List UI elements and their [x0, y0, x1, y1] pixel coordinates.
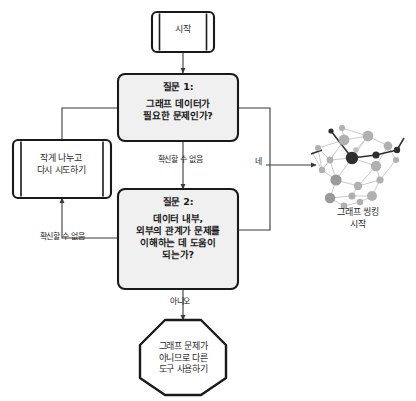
edge-label-unsure-middle: 확신할 수 없음 — [128, 155, 232, 165]
node-stop-label: 그래프 문제가 아니므로 다른 도구 사용하기 — [140, 341, 226, 376]
edge-label-no: 아니오 — [152, 297, 208, 307]
node-question1-title: 질문 1: — [118, 81, 238, 93]
edge-label-unsure-left: 확신할 수 없음 — [22, 232, 102, 242]
node-retry-label: 작게 나누고 다시 시도하기 — [16, 153, 106, 176]
node-start-label: 시작 — [150, 24, 216, 36]
flowchart-canvas: 시작 질문 1: 그래프 데이터가 필요한 문제인가? 질문 2: 데이터 내부… — [0, 0, 416, 401]
edge-label-yes: 네 — [251, 157, 265, 167]
node-question1-body: 그래프 데이터가 필요한 문제인가? — [118, 98, 238, 122]
node-question2-title: 질문 2: — [118, 196, 238, 208]
graph-thinking-caption: 그래프 씽킹 시작 — [308, 207, 408, 230]
node-question2-body: 데이터 내부, 외부의 관계가 문제를 이해하는 데 도움이 되는가? — [112, 213, 244, 262]
